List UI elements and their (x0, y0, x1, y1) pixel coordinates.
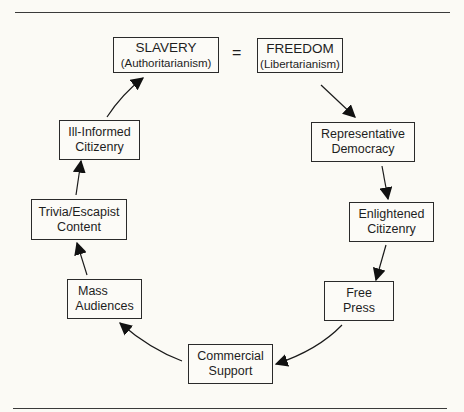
node-label-line2: Citizenry (367, 222, 416, 237)
node-freedom-title: FREEDOM (266, 40, 334, 57)
arrow-freedom-to-representative-democracy (321, 85, 355, 117)
node-label-line1: Free (346, 286, 372, 301)
arrow-free-press-to-commercial-support (276, 325, 342, 364)
node-label-line1: Trivia/Escapist (39, 205, 120, 220)
node-label-line2: Audiences (75, 299, 133, 314)
node-slavery-title: SLAVERY (135, 39, 196, 56)
arrow-ill-informed-to-slavery (107, 78, 143, 117)
node-enlightened-citizenry: Enlightened Citizenry (349, 202, 434, 242)
node-label-line2: Democracy (331, 142, 394, 157)
node-label-line1: Enlightened (358, 207, 424, 222)
node-slavery-subtitle: (Authoritarianism) (121, 56, 212, 71)
node-trivia-escapist-content: Trivia/Escapist Content (31, 199, 127, 240)
node-label-line1: Mass (68, 284, 108, 299)
arrow-mass-audiences-to-trivia (77, 243, 87, 275)
node-commercial-support: Commercial Support (188, 344, 273, 384)
node-freedom: FREEDOM (Libertarianism) (257, 38, 343, 73)
arrow-trivia-to-ill-informed (76, 161, 81, 195)
node-label-line2: Citizenry (75, 140, 124, 155)
node-label-line2: Support (209, 364, 253, 379)
node-label-line2: Press (343, 301, 375, 316)
node-ill-informed-citizenry: Ill-Informed Citizenry (59, 120, 140, 160)
node-label-line1: Ill-Informed (68, 125, 131, 140)
node-slavery: SLAVERY (Authoritarianism) (113, 37, 219, 73)
node-free-press: Free Press (324, 281, 394, 321)
node-label-line2: Content (57, 220, 101, 235)
arrow-representative-to-enlightened (382, 166, 388, 199)
node-label-line1: Representative (321, 127, 405, 142)
node-mass-audiences: Mass Audiences (67, 279, 142, 319)
equals-sign: = (232, 45, 241, 61)
arrow-enlightened-to-free-press (376, 245, 386, 280)
node-freedom-subtitle: (Libertarianism) (260, 57, 340, 72)
node-label-line1: Commercial (197, 349, 264, 364)
node-representative-democracy: Representative Democracy (311, 122, 415, 162)
arrow-commercial-to-mass-audiences (120, 323, 182, 361)
